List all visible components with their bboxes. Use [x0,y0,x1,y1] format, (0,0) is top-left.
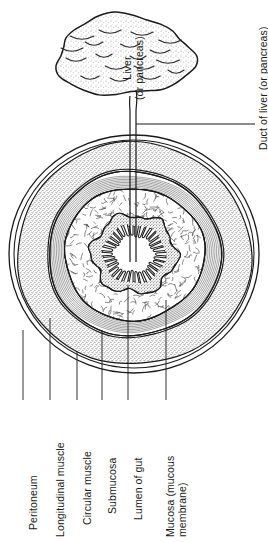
anatomy-figure: Duct of liver (or pancreas) Liver (or pa… [0,0,268,542]
label-circular-muscle: Circular muscle [82,451,94,525]
label-submucosa: Submucosa [107,458,119,514]
label-lumen-of-gut: Lumen of gut [133,458,145,521]
label-longitudinal-muscle: Longitudinal muscle [55,442,67,537]
label-duct-of-liver: Duct of liver (or pancreas) [258,27,268,151]
label-liver-line2: (or pancreas) [134,36,146,100]
label-mucosa-line1: Mucosa (mucous [165,456,177,537]
label-mucosa-line2: membrane) [177,456,189,537]
label-liver-or-pancreas: Liver (or pancreas) [122,36,145,100]
gut-cross-section [9,135,259,373]
label-liver-line1: Liver [122,36,134,100]
label-mucosa: Mucosa (mucous membrane) [165,456,188,537]
label-peritoneum: Peritoneum [28,475,40,530]
